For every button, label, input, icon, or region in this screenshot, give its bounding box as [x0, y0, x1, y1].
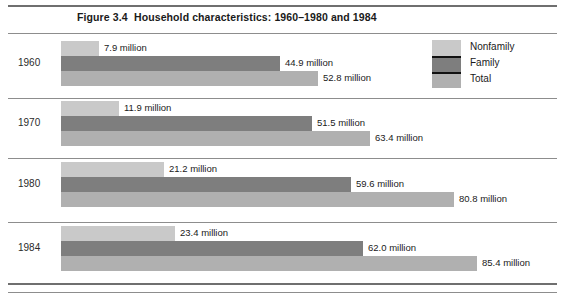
- bar-value-label: 44.9 million: [285, 57, 333, 68]
- bar-value-label: 21.2 million: [169, 163, 217, 174]
- bar-value-label: 7.9 million: [104, 42, 147, 53]
- bar-fill: [61, 131, 370, 146]
- bar-value-label: 80.8 million: [459, 193, 507, 204]
- bar-fill: [61, 101, 119, 116]
- figure-container: Figure 3.4 Household characteristics: 19…: [0, 0, 565, 298]
- bar-value-label: 52.8 million: [323, 72, 371, 83]
- legend-label: Total: [470, 73, 491, 84]
- row-separator-1960: [8, 98, 557, 99]
- row-year-label: 1960: [18, 57, 58, 68]
- row-year-label: 1980: [18, 178, 58, 189]
- row-separator-1984: [8, 283, 557, 285]
- chart-row: 198021.2 million59.6 million80.8 million: [0, 162, 565, 207]
- chart-row: 198423.4 million62.0 million85.4 million: [0, 226, 565, 271]
- row-year-label: 1984: [18, 242, 58, 253]
- legend-swatch-family: [432, 56, 461, 72]
- bar-value-label: 11.9 million: [124, 102, 171, 113]
- bar-value-label: 23.4 million: [180, 227, 228, 238]
- legend-item-family[interactable]: Family: [432, 56, 560, 72]
- bar-fill: [61, 162, 164, 177]
- legend-swatch-nonfamily: [432, 40, 461, 56]
- bar-fill: [61, 226, 175, 241]
- bar-value-label: 63.4 million: [375, 132, 423, 143]
- legend-item-total[interactable]: Total: [432, 72, 560, 88]
- legend-label: Family: [470, 57, 499, 68]
- row-separator-1980: [8, 222, 557, 223]
- bottom-rule: [8, 292, 557, 293]
- row-year-label: 1970: [18, 117, 58, 128]
- bar-fill: [61, 177, 351, 192]
- bar-value-label: 62.0 million: [368, 242, 416, 253]
- bar-value-label: 59.6 million: [356, 178, 404, 189]
- legend-swatch-total: [432, 72, 461, 88]
- bar-fill: [61, 116, 312, 131]
- legend-swatch-divider: [432, 72, 461, 74]
- bar-fill: [61, 41, 99, 56]
- legend-item-nonfamily[interactable]: Nonfamily: [432, 40, 560, 56]
- chart-row: 197011.9 million51.5 million63.4 million: [0, 101, 565, 146]
- bar-fill: [61, 241, 363, 256]
- bar-fill: [61, 192, 454, 207]
- row-separator-1970: [8, 158, 557, 159]
- bar-fill: [61, 56, 280, 71]
- bar-value-label: 51.5 million: [317, 117, 365, 128]
- bar-value-label: 85.4 million: [482, 257, 530, 268]
- legend-swatch-divider: [432, 56, 461, 58]
- legend-label: Nonfamily: [470, 41, 514, 52]
- chart-legend: NonfamilyFamilyTotal: [432, 40, 560, 88]
- bar-fill: [61, 256, 477, 271]
- bar-fill: [61, 71, 318, 86]
